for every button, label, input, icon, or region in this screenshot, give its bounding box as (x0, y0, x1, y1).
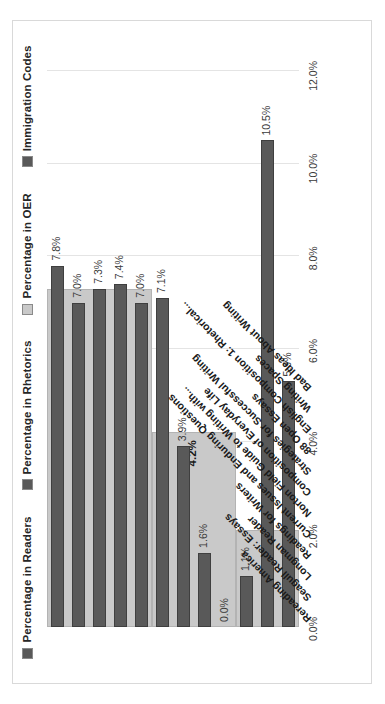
legend-swatch-icon (22, 648, 33, 659)
axis-tick-label: 10.0% (307, 154, 319, 206)
legend-item[interactable]: Percentage in OER (21, 193, 33, 314)
bar-value-label: 7.3% (92, 260, 104, 284)
bar[interactable] (135, 303, 148, 627)
legend-label: Immigration Codes (21, 45, 33, 151)
bar[interactable] (72, 303, 85, 627)
chart-legend: Percentage in ReadersPercentage in Rheto… (21, 21, 33, 683)
axis-tick-label: 0.0% (307, 617, 319, 669)
chart-plot-frame: Percentage in ReadersPercentage in Rheto… (12, 20, 372, 684)
axis-tick-label: 12.0% (307, 61, 319, 113)
bar-value-label: 7.8% (50, 237, 62, 261)
legend-label: Percentage in Readers (21, 516, 33, 642)
bar-value-label: 7.4% (113, 255, 125, 279)
legend-item[interactable]: Percentage in Rhetorics (21, 341, 33, 491)
bar-value-label: 10.5% (260, 106, 272, 136)
bar-value-label: 0.0% (218, 598, 230, 622)
legend-item[interactable]: Percentage in Readers (21, 516, 33, 658)
bar[interactable] (240, 576, 253, 627)
bar[interactable] (198, 553, 211, 627)
chart-canvas: Percentage in ReadersPercentage in Rheto… (0, 0, 385, 704)
bar-value-label: 7.0% (134, 274, 146, 298)
bar-value-label: 7.0% (71, 274, 83, 298)
gridline (47, 70, 299, 71)
axis-tick-label: 4.0% (307, 432, 319, 484)
legend-item[interactable]: Immigration Codes (21, 45, 33, 167)
legend-swatch-icon (22, 156, 33, 167)
bar-value-label: 7.1% (155, 269, 167, 293)
bar[interactable] (93, 289, 106, 627)
bar[interactable] (51, 266, 64, 627)
legend-label: Percentage in Rhetorics (21, 341, 33, 475)
bar[interactable] (177, 446, 190, 627)
legend-swatch-icon (22, 479, 33, 490)
bar[interactable] (156, 298, 169, 627)
legend-label: Percentage in OER (21, 193, 33, 298)
axis-tick-label: 8.0% (307, 246, 319, 298)
rotated-chart-wrapper: Percentage in ReadersPercentage in Rheto… (0, 0, 385, 704)
bar-value-label: 1.6% (197, 524, 209, 548)
bar[interactable] (114, 284, 127, 627)
legend-swatch-icon (22, 304, 33, 315)
